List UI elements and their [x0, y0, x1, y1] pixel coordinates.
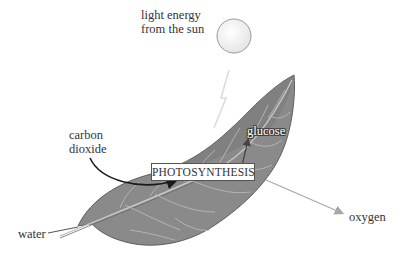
photosynthesis-diagram: light energy from the sun carbon dioxide… — [0, 0, 407, 258]
glucose-label: glucose — [247, 124, 285, 138]
oxygen-arrow — [266, 180, 342, 213]
sun-icon — [217, 19, 251, 53]
water-label: water — [18, 227, 46, 241]
carbon-dioxide-label-line1: carbon — [69, 128, 103, 142]
sun-label-line2: from the sun — [141, 22, 204, 36]
leaf-illustration — [60, 75, 295, 245]
oxygen-label: oxygen — [349, 210, 386, 224]
diagram-graphics — [0, 0, 407, 258]
carbon-dioxide-label-line2: dioxide — [69, 142, 107, 156]
light-ray-icon — [214, 70, 229, 128]
sun-label-line1: light energy — [141, 8, 201, 22]
photosynthesis-label-box: PHOTOSYNTHESIS — [151, 163, 255, 181]
